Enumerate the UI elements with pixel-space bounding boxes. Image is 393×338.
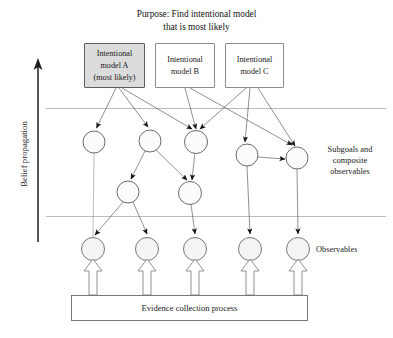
model-b-line2: model B [171,67,200,76]
subgoal-node-s1[interactable] [83,131,105,153]
subgoal-node-s2[interactable] [139,130,161,152]
figure-title-line2: that is most likely [163,22,230,32]
figure-root: Purpose: Find intentional model that is … [0,0,393,338]
model-b-line1: Intentional [167,55,203,64]
model-a-line2: model A [101,61,129,70]
edge-S1-O1 [93,153,94,238]
edge-S3-S7 [192,152,195,180]
subgoals-label-line2: composite [333,156,368,165]
model-a-line1: Intentional [97,49,133,58]
edge-S4-S5 [258,157,285,159]
evidence-arrow-o4-icon [241,259,259,295]
edge-S6-O1 [95,202,123,235]
edge-C-S5 [258,88,295,146]
observable-node-o5[interactable] [287,238,310,261]
model-c-line1: Intentional [237,55,273,64]
belief-propagation-axis: Belief propagation [19,58,42,242]
observable-node-o2[interactable] [136,238,159,261]
observable-node-o4[interactable] [239,238,262,261]
observables-tier-label: Observables [316,245,357,254]
model-box-b[interactable]: Intentional model B [156,44,215,88]
edge-A-S2 [119,88,148,127]
evidence-arrow-o2-icon [138,259,156,295]
observable-node-o3[interactable] [184,238,207,261]
model-a-line3: (most likely) [93,73,135,82]
edge-A-S1 [97,88,117,128]
subgoal-node-s5[interactable] [286,147,308,169]
edge-S6-O2 [133,202,147,234]
edge-S7-O3 [191,204,195,234]
evidence-label: Evidence collection process [142,303,239,313]
observable-nodes [82,238,310,261]
edge-S5-O5 [297,169,298,234]
bayesian-network-diagram: Purpose: Find intentional model that is … [0,0,393,338]
edge-S2-S7 [156,150,187,180]
subgoal-node-s4[interactable] [236,144,258,166]
model-box-c[interactable]: Intentional model C [226,44,284,88]
subgoals-label-line1: Subgoals and [328,145,374,154]
evidence-arrow-o5-icon [289,259,307,295]
evidence-collection-box[interactable]: Evidence collection process [72,296,308,321]
model-c-line2: model C [241,67,270,76]
evidence-arrow-o3-icon [186,259,204,295]
edge-S2-S6 [131,151,145,179]
model-box-a[interactable]: Intentional model A (most likely) [85,44,145,88]
observable-node-o1[interactable] [82,238,105,261]
edge-C-S4 [245,88,250,142]
subgoal-node-s6[interactable] [117,181,139,203]
subgoal-nodes [83,130,308,205]
subgoal-node-s7[interactable] [179,182,202,205]
evidence-arrow-o1-icon [84,259,102,295]
edges-within-subgoals [131,150,285,180]
subgoals-label-line3: observables [330,167,370,176]
subgoal-node-s3[interactable] [185,131,208,154]
subgoals-tier-label: Subgoals and composite observables [328,145,374,176]
figure-title-line1: Purpose: Find intentional model [137,9,257,19]
axis-label: Belief propagation [19,121,29,187]
edge-S4-O4 [247,166,250,234]
evidence-arrows [84,259,307,295]
